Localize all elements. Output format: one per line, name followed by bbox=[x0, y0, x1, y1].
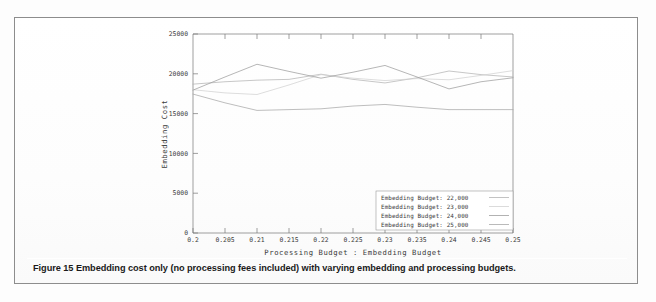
x-axis-tick-labels: 0.2 0.205 0.21 0.215 0.22 0.225 0.23 0.2… bbox=[187, 236, 521, 244]
y-tick-5000: 5000 bbox=[173, 189, 189, 197]
caption-divider bbox=[27, 258, 627, 259]
y-axis-tick-labels: 0 5000 10000 15000 20000 25000 bbox=[169, 30, 188, 237]
x-tick-6: 0.23 bbox=[377, 236, 393, 244]
page-frame-border: 0 5000 10000 15000 20000 25000 bbox=[14, 17, 638, 284]
chart-legend: Embedding Budget: 22,000 Embedding Budge… bbox=[376, 191, 513, 230]
series-line-2 bbox=[193, 64, 513, 90]
y-tick-10000: 10000 bbox=[169, 150, 188, 158]
legend-label-2: Embedding Budget: 24,000 bbox=[381, 213, 469, 220]
y-tick-25000: 25000 bbox=[169, 30, 188, 38]
legend-label-1: Embedding Budget: 23,000 bbox=[381, 204, 469, 211]
x-axis-title: Processing Budget : Embedding Budget bbox=[264, 248, 441, 257]
x-tick-4: 0.22 bbox=[313, 236, 329, 244]
figure-region: 0 5000 10000 15000 20000 25000 bbox=[15, 18, 639, 258]
x-tick-5: 0.225 bbox=[343, 236, 362, 244]
figure-caption: Figure 15 Embedding cost only (no proces… bbox=[33, 262, 625, 274]
figure-caption-label: Figure 15 bbox=[33, 263, 73, 273]
series-line-1 bbox=[193, 71, 513, 95]
embedding-cost-line-chart: 0 5000 10000 15000 20000 25000 bbox=[15, 18, 639, 258]
x-tick-9: 0.245 bbox=[471, 236, 490, 244]
x-tick-3: 0.215 bbox=[279, 236, 298, 244]
x-tick-10: 0.25 bbox=[505, 236, 521, 244]
legend-label-3: Embedding Budget: 25,000 bbox=[381, 222, 469, 229]
y-axis-ticks bbox=[193, 34, 198, 233]
x-tick-0: 0.2 bbox=[187, 236, 199, 244]
y-axis-title: Embedding Cost bbox=[160, 100, 169, 169]
figure-page: 0 5000 10000 15000 20000 25000 bbox=[0, 0, 656, 302]
legend-label-0: Embedding Budget: 22,000 bbox=[381, 195, 469, 202]
y-tick-15000: 15000 bbox=[169, 110, 188, 118]
series-line-3 bbox=[193, 94, 513, 110]
x-tick-1: 0.205 bbox=[215, 236, 234, 244]
figure-caption-text: Embedding cost only (no processing fees … bbox=[76, 263, 516, 273]
x-tick-7: 0.235 bbox=[407, 236, 426, 244]
y-tick-20000: 20000 bbox=[169, 70, 188, 78]
data-series-group bbox=[193, 64, 513, 110]
x-tick-2: 0.21 bbox=[249, 236, 265, 244]
x-tick-8: 0.24 bbox=[441, 236, 457, 244]
